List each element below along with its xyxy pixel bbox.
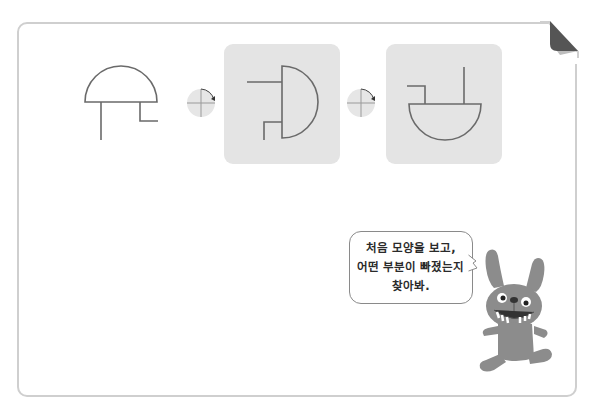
bubble-line-2: 어떤 부분이 빠졌는지	[357, 258, 464, 277]
speech-bubble: 처음 모양을 보고, 어떤 부분이 빠졌는지 찾아봐.	[349, 231, 473, 304]
bunny-mascot-icon	[476, 246, 556, 376]
bubble-line-3: 찾아봐.	[392, 277, 429, 296]
bubble-line-1: 처음 모양을 보고,	[366, 239, 455, 258]
